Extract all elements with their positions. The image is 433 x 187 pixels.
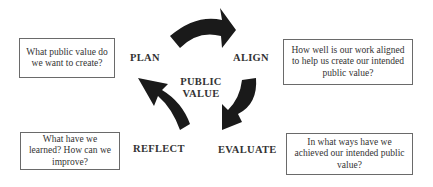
arrow-plan-to-align-icon [170,8,236,48]
center-line-1: PUBLIC [180,76,222,88]
center-public-value: PUBLIC VALUE [180,76,222,100]
align-label: ALIGN [233,52,269,64]
evaluate-question-box: In what ways have we achieved our intend… [286,133,413,175]
arrow-align-to-evaluate-icon [222,78,256,130]
reflect-question-text: What have we learned? How can we improve… [27,134,113,169]
align-question-box: How well is our work aligned to help us … [283,39,413,85]
plan-label: PLAN [130,52,160,64]
center-line-2: VALUE [180,88,222,100]
reflect-label: REFLECT [133,143,185,155]
plan-question-box: What public value do we want to create? [19,38,115,78]
plan-question-text: What public value do we want to create? [26,47,108,70]
evaluate-label: EVALUATE [218,144,277,156]
evaluate-question-text: In what ways have we achieved our intend… [293,137,406,172]
reflect-question-box: What have we learned? How can we improve… [20,132,120,170]
align-question-text: How well is our work aligned to help us … [290,45,406,80]
